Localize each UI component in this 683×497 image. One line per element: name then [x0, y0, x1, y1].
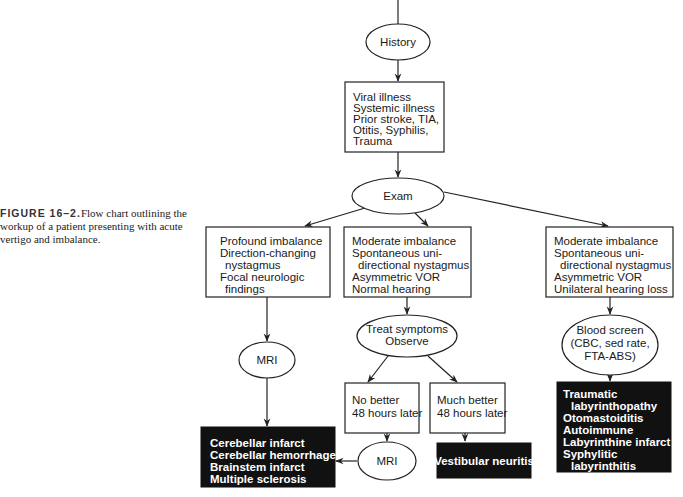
node-labyrinth-diagnoses: Traumatic labyrinthopathy Otomastoiditis… — [557, 382, 671, 472]
node-no-better: No better 48 hours later — [345, 383, 422, 433]
svg-text:Profound imbalance: Profound imbalance — [220, 235, 322, 247]
node-history-box: Viral illness Systemic illness Prior str… — [345, 82, 444, 152]
svg-text:Cerebellar infarct: Cerebellar infarct — [210, 437, 305, 449]
svg-text:Labyrinthine infarct: Labyrinthine infarct — [563, 436, 671, 448]
svg-text:Moderate imbalance: Moderate imbalance — [554, 235, 658, 247]
svg-text:Cerebellar hemorrhage: Cerebellar hemorrhage — [210, 449, 336, 461]
node-peripheral-findings: Moderate imbalance Spontaneous uni- dire… — [344, 227, 471, 297]
svg-text:Direction-changing: Direction-changing — [220, 247, 316, 259]
node-treat-symptoms: Treat symptoms Observe — [357, 315, 457, 357]
svg-text:48 hours later: 48 hours later — [437, 407, 507, 419]
svg-text:Asymmetric VOR: Asymmetric VOR — [352, 271, 440, 283]
svg-text:Spontaneous uni-: Spontaneous uni- — [554, 247, 644, 259]
node-mri-bottom: MRI — [358, 442, 416, 480]
node-vestibular-neuritis: Vestibular neuritis — [434, 443, 534, 478]
node-exam: Exam — [352, 178, 444, 214]
svg-text:Autoimmune: Autoimmune — [563, 424, 633, 436]
node-blood-screen: Blood screen (CBC, sed rate, FTA-ABS) — [562, 315, 658, 375]
svg-text:Trauma: Trauma — [353, 135, 393, 147]
svg-text:Syphylitic: Syphylitic — [563, 448, 618, 460]
svg-text:nystagmus: nystagmus — [225, 259, 281, 271]
svg-text:findings: findings — [225, 283, 265, 295]
svg-text:Otomastoiditis: Otomastoiditis — [563, 412, 644, 424]
flowchart: History Viral illness Systemic illness P… — [0, 0, 683, 497]
edge-exam-to-central — [305, 208, 365, 226]
svg-text:Blood screen: Blood screen — [576, 324, 643, 336]
svg-text:(CBC, sed rate,: (CBC, sed rate, — [570, 337, 649, 349]
edge-exam-to-peripheral — [415, 213, 428, 226]
node-mri-left: MRI — [239, 342, 295, 378]
svg-text:Treat symptoms: Treat symptoms — [366, 323, 448, 335]
svg-text:FTA-ABS): FTA-ABS) — [584, 350, 636, 362]
svg-text:MRI: MRI — [256, 354, 277, 366]
svg-text:Brainstem infarct: Brainstem infarct — [210, 461, 305, 473]
edge-treat-to-much-better — [428, 356, 457, 382]
svg-text:Vestibular neuritis: Vestibular neuritis — [434, 455, 534, 467]
node-central-diagnoses: Cerebellar infarct Cerebellar hemorrhage… — [201, 427, 336, 487]
svg-text:Multiple sclerosis: Multiple sclerosis — [210, 473, 307, 485]
svg-text:labyrinthopathy: labyrinthopathy — [571, 400, 658, 412]
svg-text:Spontaneous uni-: Spontaneous uni- — [352, 247, 442, 259]
svg-text:directional nystagmus: directional nystagmus — [560, 259, 671, 271]
node-hearing-loss-findings: Moderate imbalance Spontaneous uni- dire… — [546, 227, 673, 297]
svg-text:Exam: Exam — [383, 190, 412, 202]
svg-text:History: History — [380, 36, 416, 48]
edge-exam-to-hearing-loss — [444, 192, 608, 226]
svg-text:labyrinthitis: labyrinthitis — [571, 460, 636, 472]
svg-text:Focal neurologic: Focal neurologic — [220, 271, 305, 283]
svg-text:Much better: Much better — [437, 394, 498, 406]
node-history: History — [366, 24, 430, 60]
svg-text:MRI: MRI — [376, 455, 397, 467]
edge-treat-to-no-better — [368, 356, 388, 382]
svg-text:48 hours later: 48 hours later — [352, 407, 422, 419]
svg-text:Observe: Observe — [385, 335, 428, 347]
svg-text:Traumatic: Traumatic — [563, 388, 618, 400]
svg-text:Normal hearing: Normal hearing — [352, 283, 431, 295]
svg-text:Unilateral hearing loss: Unilateral hearing loss — [554, 283, 668, 295]
node-central-findings: Profound imbalance Direction-changing ny… — [206, 227, 330, 297]
svg-text:directional nystagmus: directional nystagmus — [358, 259, 469, 271]
node-much-better: Much better 48 hours later — [430, 383, 507, 433]
svg-text:Asymmetric VOR: Asymmetric VOR — [554, 271, 642, 283]
svg-text:No better: No better — [352, 394, 399, 406]
svg-text:Moderate imbalance: Moderate imbalance — [352, 235, 456, 247]
